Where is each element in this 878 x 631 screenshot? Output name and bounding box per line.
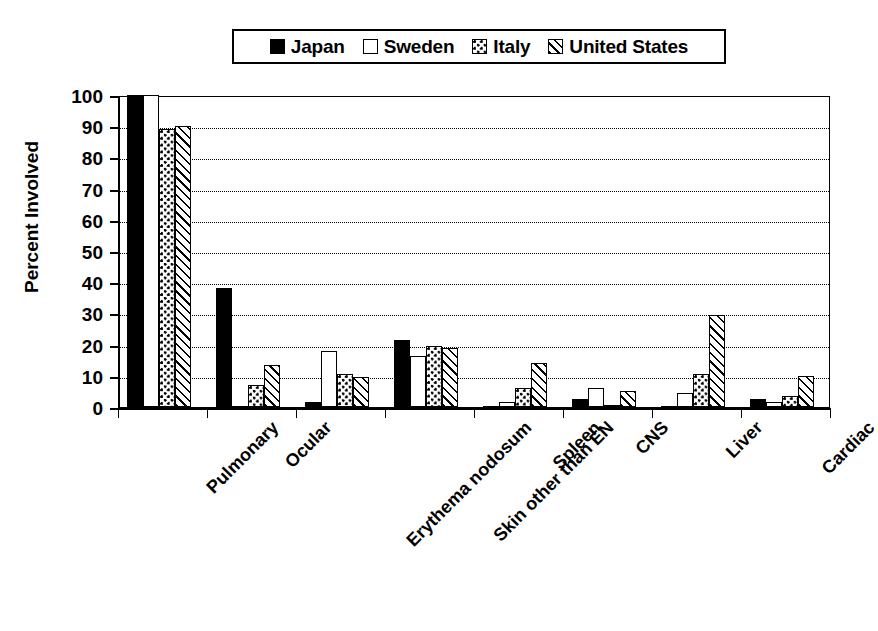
bar-japan-spleen — [483, 406, 499, 407]
x-tick-0 — [207, 408, 208, 418]
y-axis-title: Percent Involved — [21, 122, 43, 312]
bar-sweden-pulmonary — [143, 95, 159, 407]
x-tick-6 — [741, 408, 742, 418]
bar-japan-ocular — [216, 288, 232, 407]
y-tick-10 — [110, 377, 119, 379]
x-tick-label-liver: Liver — [723, 418, 766, 461]
bar-japan-skin-other-than-en — [394, 340, 410, 407]
bar-group-spleen — [483, 95, 547, 407]
y-tick-label-0: 0 — [20, 399, 103, 418]
x-tick-label-ocular: Ocular — [282, 418, 335, 471]
bar-italy-pulmonary — [159, 129, 175, 407]
y-tick-label-20: 20 — [20, 336, 103, 355]
x-tick-label-cardiac: Cardiac — [818, 418, 877, 477]
bar-sweden-spleen — [499, 402, 515, 407]
y-tick-100 — [110, 96, 119, 98]
x-tick-1 — [296, 408, 297, 418]
bar-group-ocular — [216, 95, 280, 407]
x-tick-label-pulmonary: Pulmonary — [203, 418, 282, 497]
x-tick-5 — [652, 408, 653, 418]
bar-united-states-liver — [709, 315, 725, 407]
bar-sweden-ocular — [232, 406, 248, 407]
bar-sweden-erythema-nodosum — [321, 351, 337, 407]
y-tick-label-10: 10 — [20, 367, 103, 386]
plot-area — [118, 96, 830, 408]
y-tick-30 — [110, 314, 119, 316]
bar-italy-liver — [693, 374, 709, 407]
bar-italy-cns — [604, 405, 620, 407]
bar-italy-skin-other-than-en — [426, 346, 442, 407]
bar-japan-liver — [661, 406, 677, 407]
bar-group-skin-other-than-en — [394, 95, 458, 407]
x-tick-2 — [385, 408, 386, 418]
bar-united-states-erythema-nodosum — [353, 377, 369, 407]
y-tick-label-100: 100 — [20, 87, 103, 106]
bar-italy-ocular — [248, 385, 264, 407]
bar-japan-cardiac — [750, 399, 766, 407]
bar-japan-erythema-nodosum — [305, 402, 321, 407]
bar-sweden-skin-other-than-en — [410, 356, 426, 407]
y-tick-90 — [110, 127, 119, 129]
bar-japan-cns — [572, 399, 588, 407]
x-tick-7 — [830, 408, 831, 418]
bar-united-states-spleen — [531, 363, 547, 407]
bar-united-states-ocular — [264, 365, 280, 407]
bar-sweden-cardiac — [766, 402, 782, 407]
x-tick-label-cns: CNS — [632, 418, 672, 458]
bar-united-states-cns — [620, 391, 636, 407]
bar-japan-pulmonary — [127, 95, 143, 407]
y-tick-70 — [110, 190, 119, 192]
bar-group-cardiac — [750, 95, 814, 407]
bar-sweden-liver — [677, 393, 693, 407]
y-axis-tick-labels: 0102030405060708090100 — [20, 0, 103, 631]
bar-group-pulmonary — [127, 95, 191, 407]
y-tick-40 — [110, 283, 119, 285]
bar-united-states-cardiac — [798, 376, 814, 407]
bar-group-liver — [661, 95, 725, 407]
bar-united-states-pulmonary — [175, 126, 191, 407]
y-tick-60 — [110, 221, 119, 223]
y-tick-0 — [110, 408, 119, 410]
x-tick-3 — [474, 408, 475, 418]
bar-group-cns — [572, 95, 636, 407]
bar-italy-cardiac — [782, 396, 798, 407]
bar-united-states-skin-other-than-en — [442, 348, 458, 407]
y-tick-50 — [110, 252, 119, 254]
y-tick-20 — [110, 346, 119, 348]
bar-italy-erythema-nodosum — [337, 374, 353, 407]
x-tick-4 — [563, 408, 564, 418]
bar-group-erythema-nodosum — [305, 95, 369, 407]
bar-italy-spleen — [515, 388, 531, 407]
y-tick-80 — [110, 158, 119, 160]
bar-sweden-cns — [588, 388, 604, 407]
